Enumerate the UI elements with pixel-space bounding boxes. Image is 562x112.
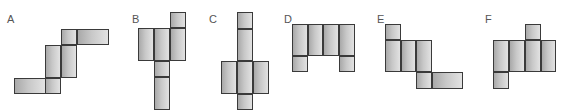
figure-label: F bbox=[485, 14, 492, 25]
net-face bbox=[493, 40, 509, 72]
net-face bbox=[541, 40, 556, 72]
net-figure-f: F bbox=[0, 0, 562, 112]
net-face bbox=[509, 40, 525, 72]
net-face bbox=[525, 40, 541, 72]
net-face bbox=[525, 24, 541, 40]
net-face bbox=[493, 72, 509, 89]
